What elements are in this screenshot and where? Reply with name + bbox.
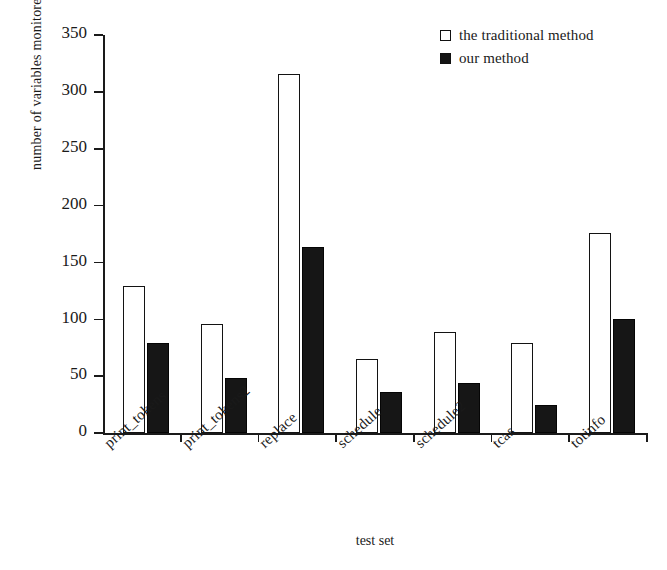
bar-totinfo-traditional	[589, 233, 611, 433]
y-tick-label-150: 150	[62, 251, 88, 271]
y-tick-50: 50	[94, 375, 103, 377]
y-axis-title: number of variables monitored	[29, 0, 45, 170]
y-tick-label-0: 0	[79, 421, 88, 441]
bar-chart-figure: the traditional method our method 050100…	[0, 0, 667, 570]
y-tick-label-250: 250	[62, 137, 88, 157]
y-tick-0: 0	[94, 432, 103, 434]
x-axis-title: test set	[103, 533, 647, 549]
bar-totinfo-ours	[613, 319, 635, 433]
y-tick-200: 200	[94, 205, 103, 207]
bar-replace-ours	[302, 247, 324, 433]
y-tick-label-50: 50	[70, 364, 87, 384]
x-tick-totinfo	[646, 433, 648, 442]
y-tick-350: 350	[94, 34, 103, 36]
bar-tcas-traditional	[511, 343, 533, 433]
bar-replace-traditional	[278, 74, 300, 433]
y-tick-300: 300	[94, 91, 103, 93]
y-tick-label-100: 100	[62, 308, 88, 328]
y-tick-label-300: 300	[62, 80, 88, 100]
plot-area: 050100150200250300350 print_tokensprint_…	[103, 35, 647, 433]
y-tick-250: 250	[94, 148, 103, 150]
bar-tcas-ours	[535, 405, 557, 433]
y-tick-100: 100	[94, 319, 103, 321]
y-tick-label-350: 350	[62, 23, 88, 43]
y-axis-line	[103, 35, 105, 433]
y-tick-150: 150	[94, 262, 103, 264]
y-tick-label-200: 200	[62, 194, 88, 214]
